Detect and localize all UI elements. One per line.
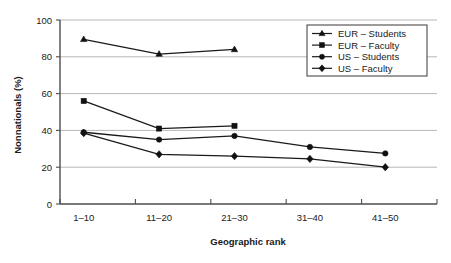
- data-point: [81, 98, 86, 103]
- legend: EUR – StudentsEUR – FacultyUS – Students…: [307, 25, 427, 76]
- legend-label: US – Students: [338, 51, 400, 62]
- data-point: [232, 123, 237, 128]
- data-point: [383, 151, 388, 156]
- x-tick-label: 31–40: [297, 212, 323, 223]
- data-point: [156, 137, 161, 142]
- data-point: [382, 164, 388, 171]
- y-tick-label: 100: [36, 15, 52, 26]
- data-point: [307, 155, 313, 162]
- chart-figure: 020406080100 1–1011–2021–3031–4041–50 EU…: [0, 0, 451, 263]
- series-square: [81, 98, 237, 131]
- data-point: [231, 152, 237, 159]
- data-point: [81, 36, 87, 42]
- y-tick-labels: 020406080100: [36, 15, 52, 210]
- x-tick-label: 1–10: [73, 212, 94, 223]
- data-point: [156, 151, 162, 158]
- legend-label: EUR – Students: [338, 28, 406, 39]
- y-tick-label: 40: [41, 125, 52, 136]
- legend-label: US – Faculty: [338, 63, 393, 74]
- y-tick-label: 0: [47, 199, 52, 210]
- legend-label: EUR – Faculty: [338, 40, 399, 51]
- x-tick-label: 21–30: [221, 212, 247, 223]
- data-point: [307, 144, 312, 149]
- y-tick-label: 20: [41, 162, 52, 173]
- data-point: [231, 46, 237, 52]
- x-axis-title: Geographic rank: [210, 236, 286, 247]
- x-tick-label: 41–50: [372, 212, 398, 223]
- y-tick-label: 60: [41, 88, 52, 99]
- legend-marker-circle: [319, 54, 324, 59]
- line-chart: 020406080100 1–1011–2021–3031–4041–50 EU…: [0, 0, 451, 263]
- x-tick-labels: 1–1011–2021–3031–4041–50: [73, 212, 398, 223]
- series-line: [84, 101, 235, 129]
- legend-marker-square: [320, 43, 325, 48]
- series-triangle: [81, 36, 238, 56]
- data-point: [157, 126, 162, 131]
- y-axis-title: Nonnationals (%): [12, 76, 23, 154]
- y-tick-label: 80: [41, 51, 52, 62]
- data-point: [232, 133, 237, 138]
- x-tick-label: 11–20: [146, 212, 172, 223]
